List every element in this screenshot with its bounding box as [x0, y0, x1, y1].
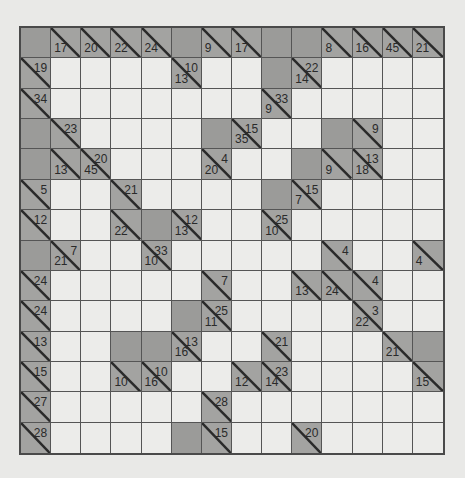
entry-cell[interactable] — [202, 89, 232, 119]
entry-cell[interactable] — [413, 210, 443, 240]
entry-cell[interactable] — [232, 301, 262, 331]
entry-cell[interactable] — [292, 301, 322, 331]
entry-cell[interactable] — [142, 58, 172, 88]
entry-cell[interactable] — [383, 89, 413, 119]
entry-cell[interactable] — [172, 241, 202, 271]
entry-cell[interactable] — [383, 362, 413, 392]
entry-cell[interactable] — [51, 423, 81, 453]
entry-cell[interactable] — [262, 423, 292, 453]
entry-cell[interactable] — [202, 241, 232, 271]
entry-cell[interactable] — [383, 119, 413, 149]
entry-cell[interactable] — [413, 271, 443, 301]
entry-cell[interactable] — [292, 332, 322, 362]
entry-cell[interactable] — [413, 180, 443, 210]
entry-cell[interactable] — [232, 58, 262, 88]
entry-cell[interactable] — [322, 58, 352, 88]
entry-cell[interactable] — [232, 332, 262, 362]
entry-cell[interactable] — [111, 423, 141, 453]
entry-cell[interactable] — [292, 392, 322, 422]
entry-cell[interactable] — [172, 149, 202, 179]
entry-cell[interactable] — [383, 423, 413, 453]
entry-cell[interactable] — [413, 392, 443, 422]
entry-cell[interactable] — [142, 423, 172, 453]
entry-cell[interactable] — [51, 362, 81, 392]
entry-cell[interactable] — [292, 241, 322, 271]
entry-cell[interactable] — [262, 149, 292, 179]
entry-cell[interactable] — [232, 210, 262, 240]
entry-cell[interactable] — [51, 301, 81, 331]
entry-cell[interactable] — [51, 271, 81, 301]
entry-cell[interactable] — [292, 362, 322, 392]
entry-cell[interactable] — [202, 332, 232, 362]
entry-cell[interactable] — [111, 241, 141, 271]
entry-cell[interactable] — [142, 392, 172, 422]
entry-cell[interactable] — [292, 210, 322, 240]
entry-cell[interactable] — [81, 362, 111, 392]
entry-cell[interactable] — [413, 58, 443, 88]
entry-cell[interactable] — [353, 332, 383, 362]
entry-cell[interactable] — [232, 241, 262, 271]
entry-cell[interactable] — [81, 271, 111, 301]
entry-cell[interactable] — [202, 58, 232, 88]
entry-cell[interactable] — [322, 423, 352, 453]
entry-cell[interactable] — [51, 89, 81, 119]
entry-cell[interactable] — [142, 180, 172, 210]
entry-cell[interactable] — [81, 332, 111, 362]
entry-cell[interactable] — [51, 332, 81, 362]
entry-cell[interactable] — [142, 301, 172, 331]
entry-cell[interactable] — [142, 119, 172, 149]
entry-cell[interactable] — [111, 119, 141, 149]
entry-cell[interactable] — [202, 362, 232, 392]
entry-cell[interactable] — [172, 271, 202, 301]
entry-cell[interactable] — [322, 362, 352, 392]
entry-cell[interactable] — [81, 180, 111, 210]
entry-cell[interactable] — [232, 271, 262, 301]
entry-cell[interactable] — [262, 392, 292, 422]
entry-cell[interactable] — [81, 392, 111, 422]
entry-cell[interactable] — [111, 392, 141, 422]
entry-cell[interactable] — [81, 241, 111, 271]
entry-cell[interactable] — [51, 58, 81, 88]
entry-cell[interactable] — [353, 423, 383, 453]
entry-cell[interactable] — [413, 119, 443, 149]
entry-cell[interactable] — [51, 180, 81, 210]
entry-cell[interactable] — [413, 89, 443, 119]
entry-cell[interactable] — [81, 423, 111, 453]
entry-cell[interactable] — [172, 362, 202, 392]
entry-cell[interactable] — [262, 241, 292, 271]
entry-cell[interactable] — [111, 149, 141, 179]
entry-cell[interactable] — [232, 423, 262, 453]
entry-cell[interactable] — [142, 149, 172, 179]
entry-cell[interactable] — [111, 271, 141, 301]
entry-cell[interactable] — [322, 332, 352, 362]
entry-cell[interactable] — [353, 180, 383, 210]
entry-cell[interactable] — [353, 210, 383, 240]
entry-cell[interactable] — [81, 58, 111, 88]
entry-cell[interactable] — [81, 119, 111, 149]
entry-cell[interactable] — [383, 180, 413, 210]
entry-cell[interactable] — [322, 210, 352, 240]
entry-cell[interactable] — [322, 392, 352, 422]
entry-cell[interactable] — [232, 180, 262, 210]
entry-cell[interactable] — [262, 119, 292, 149]
entry-cell[interactable] — [262, 271, 292, 301]
entry-cell[interactable] — [81, 210, 111, 240]
entry-cell[interactable] — [111, 58, 141, 88]
entry-cell[interactable] — [51, 392, 81, 422]
entry-cell[interactable] — [81, 301, 111, 331]
entry-cell[interactable] — [172, 180, 202, 210]
entry-cell[interactable] — [383, 241, 413, 271]
entry-cell[interactable] — [383, 149, 413, 179]
entry-cell[interactable] — [202, 210, 232, 240]
entry-cell[interactable] — [232, 89, 262, 119]
entry-cell[interactable] — [322, 89, 352, 119]
entry-cell[interactable] — [413, 423, 443, 453]
entry-cell[interactable] — [413, 149, 443, 179]
entry-cell[interactable] — [111, 301, 141, 331]
entry-cell[interactable] — [383, 58, 413, 88]
entry-cell[interactable] — [322, 180, 352, 210]
entry-cell[interactable] — [353, 58, 383, 88]
entry-cell[interactable] — [292, 119, 322, 149]
entry-cell[interactable] — [383, 301, 413, 331]
entry-cell[interactable] — [202, 180, 232, 210]
